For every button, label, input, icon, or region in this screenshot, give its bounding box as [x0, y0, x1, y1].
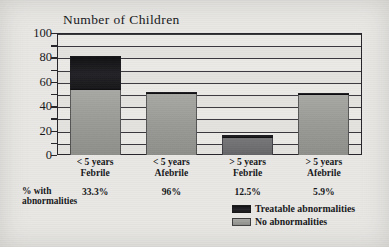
y-axis-labels: 020406080100: [8, 33, 52, 155]
y-axis-tick-mark: [51, 155, 57, 156]
percent-value: 5.9%: [286, 186, 362, 197]
legend-swatch-gray: [232, 218, 251, 226]
legend-swatch-dark: [232, 205, 251, 213]
bar-segment-no-abnormalities: [222, 138, 273, 155]
bar-segment-no-abnormalities: [70, 90, 121, 155]
bar: [222, 135, 273, 155]
category-label-line: < 5 years: [57, 157, 133, 168]
y-axis-tick-label: 100: [33, 26, 52, 41]
legend-label: No abnormalities: [255, 216, 327, 227]
category-label-line: Febrile: [210, 168, 286, 179]
bar: [70, 56, 121, 155]
y-axis-tick-mark: [51, 45, 57, 46]
category-label: > 5 yearsFebrile: [210, 157, 286, 178]
chart-title: Number of Children: [63, 12, 180, 28]
category-label-line: Afebrile: [286, 168, 362, 179]
category-label-line: < 5 years: [133, 157, 209, 168]
y-axis-tick-mark: [51, 131, 57, 132]
category-labels: < 5 yearsFebrile< 5 yearsAfebrile> 5 yea…: [57, 157, 362, 185]
bar-segment-no-abnormalities: [146, 94, 197, 155]
category-label-line: > 5 years: [286, 157, 362, 168]
y-axis-tick-mark: [51, 57, 57, 58]
y-axis-tick-mark: [51, 33, 57, 34]
percent-value: 96%: [133, 186, 209, 197]
y-axis-tick-mark: [51, 143, 57, 144]
category-label-line: Febrile: [57, 168, 133, 179]
chart-figure: Number of Children 020406080100 < 5 year…: [0, 0, 389, 247]
percent-value: 33.3%: [57, 186, 133, 197]
bar: [146, 92, 197, 155]
bar-segment-treatable-abnormalities: [70, 56, 121, 90]
y-axis-tick-mark: [51, 70, 57, 71]
category-label-line: > 5 years: [210, 157, 286, 168]
category-label-line: Afebrile: [133, 168, 209, 179]
chart-legend: Treatable abnormalitiesNo abnormalities: [232, 203, 355, 229]
y-axis-tick-mark: [51, 94, 57, 95]
y-axis-tick-mark: [51, 82, 57, 83]
category-label: < 5 yearsAfebrile: [133, 157, 209, 178]
percent-values: 33.3%96%12.5%5.9%: [57, 186, 362, 200]
category-label: > 5 yearsAfebrile: [286, 157, 362, 178]
y-axis-tick-mark: [51, 106, 57, 107]
category-label: < 5 yearsFebrile: [57, 157, 133, 178]
bar-segment-no-abnormalities: [298, 95, 349, 155]
bar: [298, 93, 349, 155]
legend-label: Treatable abnormalities: [255, 203, 355, 214]
bars-layer: [57, 33, 362, 155]
percent-value: 12.5%: [210, 186, 286, 197]
legend-item: Treatable abnormalities: [232, 203, 355, 214]
legend-item: No abnormalities: [232, 216, 355, 227]
y-axis-tick-mark: [51, 118, 57, 119]
